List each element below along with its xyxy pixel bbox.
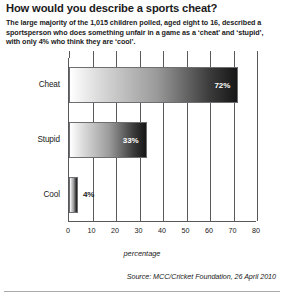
axis-tick [93, 51, 94, 58]
x-tick-20: 20 [104, 226, 126, 235]
chart-container: How would you describe a sports cheat? T… [0, 0, 284, 301]
bar-value-label: 4% [83, 190, 94, 199]
bottom-divider [4, 291, 280, 292]
x-tick-30: 30 [128, 226, 150, 235]
axis-tick [140, 51, 141, 58]
bar-value-label: 72% [214, 81, 237, 90]
axis-tick [116, 51, 117, 58]
x-tick-60: 60 [198, 226, 220, 235]
axis-tick [234, 51, 235, 58]
x-tick-80: 80 [245, 226, 267, 235]
x-tick-10: 10 [81, 226, 103, 235]
bar-stupid: 33% [69, 122, 147, 158]
category-label-stupid: Stupid [4, 135, 60, 144]
bar-value-label: 33% [123, 136, 146, 145]
axis-tick [187, 51, 188, 58]
axis-tick [69, 51, 70, 58]
gridline [257, 58, 258, 221]
axis-tick [257, 51, 258, 58]
axis-tick [210, 51, 211, 58]
chart-standfirst: The large majority of the 1,015 children… [6, 18, 264, 47]
bar-cool: 4% [69, 177, 78, 213]
x-tick-70: 70 [222, 226, 244, 235]
category-label-cheat: Cheat [4, 80, 60, 89]
bar-cheat: 72% [69, 67, 238, 103]
x-tick-0: 0 [57, 226, 79, 235]
plot-area: 72%33%4% [68, 58, 256, 222]
category-label-cool: Cool [4, 190, 60, 199]
x-tick-50: 50 [175, 226, 197, 235]
x-tick-40: 40 [151, 226, 173, 235]
page-title: How would you describe a sports cheat? [6, 2, 278, 15]
x-axis-title: percentage [0, 249, 284, 258]
axis-tick [163, 51, 164, 58]
source-note: Source: MCC/Cricket Foundation, 26 April… [127, 272, 276, 281]
